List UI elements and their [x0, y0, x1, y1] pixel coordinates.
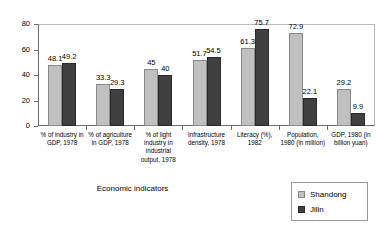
bar-jilin[interactable]	[303, 98, 317, 126]
legend: Shandong Jilin	[291, 182, 368, 221]
x-axis-category-label: % of agriculture in GDP, 1978	[87, 131, 133, 147]
legend-label-shandong: Shandong	[310, 190, 346, 199]
bar-shandong[interactable]	[96, 84, 110, 126]
x-axis-category-labels: % of industry in GDP, 1978% of agricultu…	[38, 131, 375, 177]
bar-value-label: 40	[151, 65, 179, 73]
x-axis-tick-mark	[182, 126, 183, 130]
bar-chart: 020406080 48.149.233.329.3454051.754.561…	[0, 0, 391, 228]
y-tick-label: 0	[0, 122, 30, 130]
y-tick-label: 40	[0, 71, 30, 79]
bar-jilin[interactable]	[351, 113, 365, 126]
bar-value-label: 22.1	[296, 88, 324, 96]
bar-jilin[interactable]	[207, 57, 221, 126]
bar-value-label: 61.3	[234, 38, 262, 46]
bar-value-label: 29.2	[330, 79, 358, 87]
x-axis-tick-mark	[327, 126, 328, 130]
bar-jilin[interactable]	[62, 63, 76, 126]
x-axis-tick-mark	[86, 126, 87, 130]
legend-item-jilin[interactable]: Jilin	[298, 203, 324, 215]
legend-label-jilin: Jilin	[310, 205, 324, 214]
bar-shandong[interactable]	[289, 33, 303, 126]
bar-shandong[interactable]	[144, 69, 158, 126]
y-tick-label: 80	[0, 20, 30, 28]
y-axis: 020406080	[0, 18, 30, 132]
bar-shandong[interactable]	[241, 48, 255, 126]
legend-swatch-shandong-icon	[298, 191, 305, 198]
bar-value-label: 72.9	[282, 23, 310, 31]
bar-value-label: 49.2	[55, 53, 83, 61]
bar-jilin[interactable]	[110, 89, 124, 126]
bar-jilin[interactable]	[158, 75, 172, 126]
x-axis-category-label: Literacy (%), 1982	[232, 131, 278, 147]
x-axis-tick-mark	[231, 126, 232, 130]
bar-value-label: 29.3	[103, 79, 131, 87]
y-tick-mark	[34, 126, 38, 127]
x-axis-category-label: Infrastructure density, 1978	[183, 131, 229, 147]
y-tick-label: 20	[0, 97, 30, 105]
bar-shandong[interactable]	[48, 65, 62, 126]
x-axis-category-label: % of light industry in industrial output…	[135, 131, 181, 164]
x-axis-title: Economic indicators	[60, 184, 205, 194]
x-axis-tick-mark	[134, 126, 135, 130]
x-axis-category-label: Population, 1980 (in million)	[280, 131, 326, 147]
legend-swatch-jilin-icon	[298, 206, 305, 213]
legend-item-shandong[interactable]: Shandong	[298, 188, 346, 200]
bar-shandong[interactable]	[193, 60, 207, 126]
bar-value-label: 9.9	[344, 103, 372, 111]
bar-value-label: 75.7	[248, 19, 276, 27]
x-axis-category-label: % of industry in GDP, 1978	[39, 131, 85, 147]
x-axis-category-label: GDP, 1980 (in billion yuan)	[328, 131, 374, 147]
y-tick-label: 60	[0, 46, 30, 54]
x-axis-tick-mark	[279, 126, 280, 130]
bar-value-label: 54.5	[200, 47, 228, 55]
